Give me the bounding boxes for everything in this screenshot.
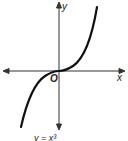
y-axis: [57, 2, 62, 130]
y-axis-label: y: [62, 2, 67, 12]
y-axis-up-arrow-icon: [57, 2, 62, 8]
cubic-graph: [0, 0, 128, 141]
x-axis-left-arrow-icon: [3, 69, 9, 74]
x-axis-label: x: [117, 73, 122, 83]
origin-label: O: [50, 74, 58, 84]
y-axis-down-arrow-icon: [57, 124, 62, 130]
graph-caption: y = x³: [34, 134, 56, 141]
